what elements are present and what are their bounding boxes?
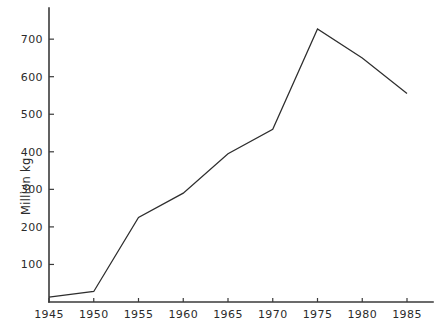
y-tick-label: 100 [21, 258, 43, 271]
x-tick-label: 1985 [392, 308, 422, 321]
y-tick-label: 500 [21, 108, 43, 121]
x-tick-label: 1960 [168, 308, 198, 321]
y-axis-label-group: Million kg [19, 157, 33, 215]
y-tick-label: 400 [21, 146, 43, 159]
y-axis-label: Million kg [19, 157, 33, 215]
y-tick-label: 700 [21, 33, 43, 46]
x-tick-label: 1950 [79, 308, 109, 321]
x-tick-label: 1945 [34, 308, 64, 321]
y-tick-label: 600 [21, 71, 43, 84]
chart-figure: 700600500400300200100 194519501955196019… [0, 0, 439, 331]
x-tick-label: 1970 [258, 308, 288, 321]
x-tick-label: 1965 [213, 308, 243, 321]
x-tick-label: 1980 [347, 308, 377, 321]
chart-axes [49, 8, 433, 302]
data-series-group [49, 29, 407, 297]
x-tick-label: 1955 [124, 308, 154, 321]
line-chart-plot: 700600500400300200100 194519501955196019… [0, 0, 439, 331]
x-tick-label: 1975 [303, 308, 333, 321]
y-tick-label: 200 [21, 221, 43, 234]
data-line-million-kg [49, 29, 407, 297]
